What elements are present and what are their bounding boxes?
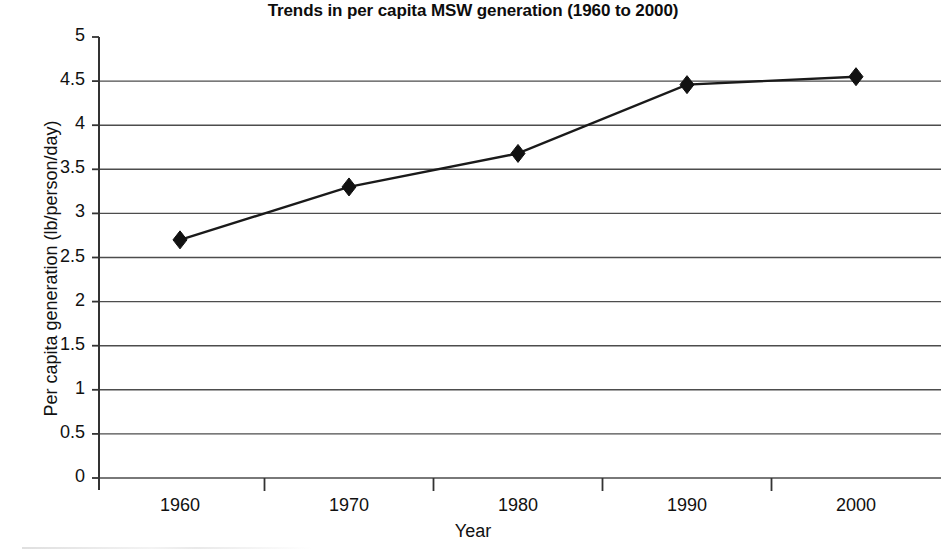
- x-tick-label: 1980: [463, 495, 573, 516]
- plot-area: [0, 0, 946, 556]
- y-tick-label: 3: [25, 201, 85, 222]
- data-point-marker: [511, 144, 525, 162]
- y-tick-label: 4: [25, 113, 85, 134]
- scan-artifact: [22, 547, 312, 549]
- x-tick-marks-group: [265, 478, 772, 491]
- y-tick-label: 1: [25, 378, 85, 399]
- data-point-markers-group: [173, 68, 863, 249]
- y-tick-label: 3.5: [25, 157, 85, 178]
- y-tick-label: 4.5: [25, 69, 85, 90]
- data-point-marker: [680, 76, 694, 94]
- chart-container: Trends in per capita MSW generation (196…: [0, 0, 946, 556]
- x-tick-label: 1960: [125, 495, 235, 516]
- y-tick-label: 2.5: [25, 246, 85, 267]
- data-point-marker: [342, 178, 356, 196]
- x-tick-label: 2000: [801, 495, 911, 516]
- y-tick-label: 1.5: [25, 334, 85, 355]
- x-tick-label: 1970: [294, 495, 404, 516]
- y-tick-marks-group: [92, 37, 99, 478]
- x-tick-label: 1990: [632, 495, 742, 516]
- y-tick-label: 5: [25, 25, 85, 46]
- data-point-marker: [849, 68, 863, 86]
- y-tick-label: 0.5: [25, 422, 85, 443]
- y-tick-label: 0: [25, 466, 85, 487]
- gridlines-group: [99, 81, 941, 478]
- data-point-marker: [173, 231, 187, 249]
- y-tick-label: 2: [25, 290, 85, 311]
